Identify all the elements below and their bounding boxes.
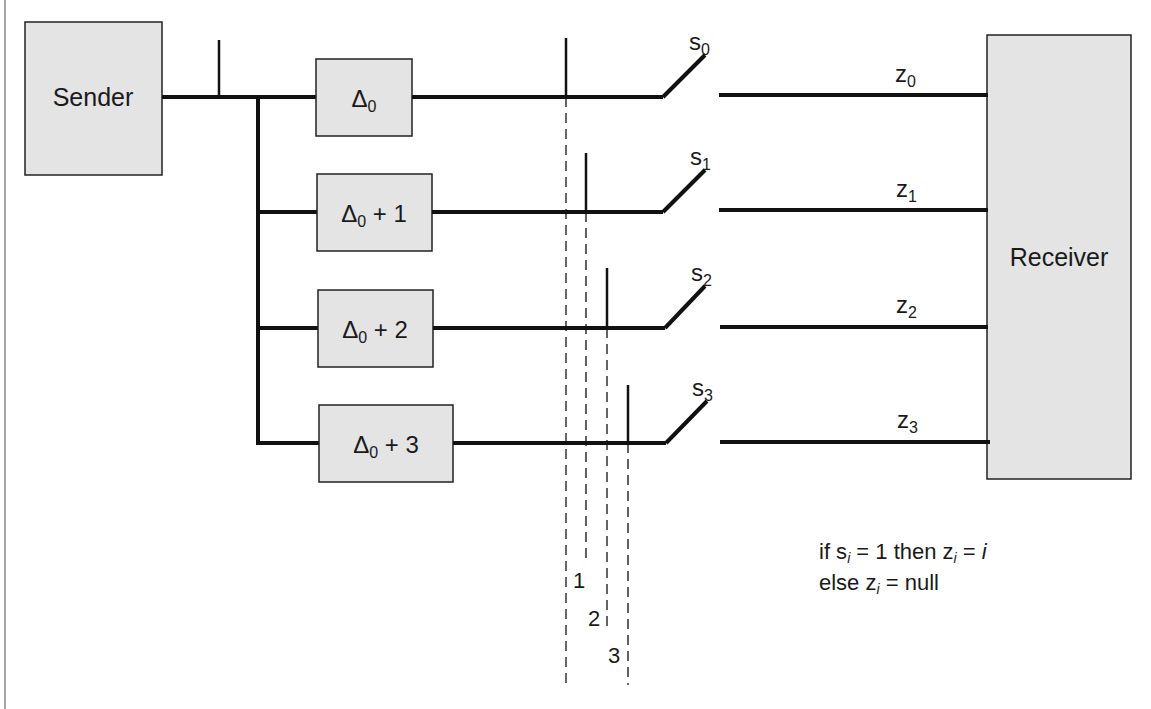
svg-text:Δ0 + 2: Δ0 + 2	[342, 316, 408, 346]
delay-box-2: Δ0 + 2	[318, 290, 433, 367]
delay-box-3: Δ0 + 3	[319, 405, 453, 482]
delay-box-1: Δ0 + 1	[317, 174, 432, 251]
switch-label-1: s1	[690, 143, 711, 173]
switch-label-3: s3	[692, 374, 713, 404]
switch-1	[663, 170, 705, 212]
row-1: s1 z1	[432, 143, 988, 212]
svg-text:Δ0 + 1: Δ0 + 1	[341, 200, 407, 230]
rule-line-1: if si = 1 then zi = i	[819, 539, 988, 566]
rule-line-2: else zi = null	[819, 570, 939, 597]
sender-box: Sender	[25, 22, 162, 175]
output-label-1: z1	[896, 175, 917, 205]
output-label-3: z3	[897, 406, 918, 436]
time-marker-label-1: 1	[573, 568, 585, 593]
switch-3	[666, 401, 707, 443]
switch-label-2: s2	[691, 259, 712, 289]
output-label-2: z2	[896, 291, 917, 321]
sender-receiver-delay-diagram: Sender Receiver Δ0 Δ0 + 1 Δ0 + 2 Δ0 + 3 …	[0, 0, 1151, 709]
row-0: s0 z0	[412, 28, 988, 97]
sender-label: Sender	[53, 83, 134, 111]
row-2: s2 z2	[433, 259, 988, 328]
switch-label-0: s0	[689, 28, 710, 58]
time-marker-label-2: 2	[588, 606, 600, 631]
switch-0	[663, 55, 705, 97]
row-3: s3 z3	[453, 374, 990, 443]
time-marker-label-3: 3	[608, 643, 620, 668]
svg-text:Δ0 + 3: Δ0 + 3	[353, 431, 419, 461]
receiver-label: Receiver	[1010, 243, 1109, 271]
switch-2	[665, 286, 705, 328]
receiver-box: Receiver	[987, 35, 1131, 479]
delay-box-0: Δ0	[316, 59, 412, 136]
output-label-0: z0	[895, 60, 916, 90]
